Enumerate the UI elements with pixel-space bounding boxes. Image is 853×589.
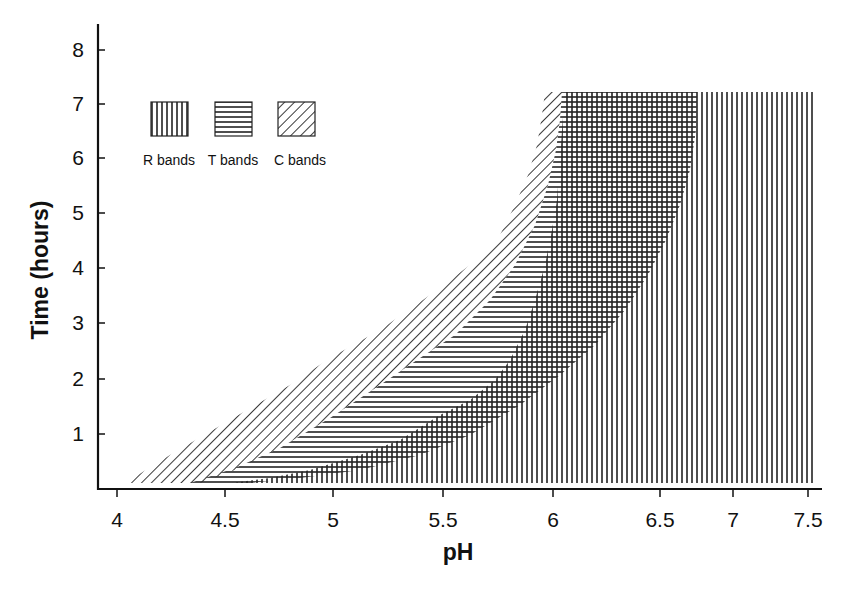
x-ticks xyxy=(117,489,808,497)
x-tick-label: 6 xyxy=(547,508,559,531)
x-tick-label: 7 xyxy=(727,508,739,531)
y-tick-label: 2 xyxy=(72,367,84,390)
y-axis-title: Time (hours) xyxy=(27,201,53,340)
horizontal-lines-swatch-icon xyxy=(215,102,252,136)
chart: 1 2 3 4 5 6 7 8 4 4.5 5 5.5 6 6.5 xyxy=(0,0,853,589)
x-tick-label: 7.5 xyxy=(793,508,822,531)
x-axis-title: pH xyxy=(443,539,474,565)
y-tick-label: 3 xyxy=(72,311,84,334)
x-tick-label: 5 xyxy=(327,508,339,531)
legend-label: R bands xyxy=(143,152,195,168)
vertical-lines-swatch-icon xyxy=(151,102,188,136)
x-tick-label: 5.5 xyxy=(428,508,457,531)
legend-item-c-bands: C bands xyxy=(274,102,326,168)
y-tick-label: 1 xyxy=(72,422,84,445)
y-tick-labels: 1 2 3 4 5 6 7 8 xyxy=(72,38,84,445)
legend-item-r-bands: R bands xyxy=(143,102,195,168)
x-tick-labels: 4 4.5 5 5.5 6 6.5 7 7.5 xyxy=(111,508,822,531)
y-tick-label: 5 xyxy=(72,201,84,224)
y-tick-label: 6 xyxy=(72,146,84,169)
y-tick-label: 7 xyxy=(72,92,84,115)
legend-label: T bands xyxy=(208,152,258,168)
legend-item-t-bands: T bands xyxy=(208,102,258,168)
diagonal-lines-swatch-icon xyxy=(278,102,315,136)
y-tick-label: 8 xyxy=(72,38,84,61)
plot-area xyxy=(125,92,813,483)
x-tick-label: 4 xyxy=(111,508,123,531)
legend: R bands T bands C bands xyxy=(143,102,326,168)
x-tick-label: 6.5 xyxy=(645,508,674,531)
legend-label: C bands xyxy=(274,152,326,168)
x-tick-label: 4.5 xyxy=(210,508,239,531)
y-tick-label: 4 xyxy=(72,256,84,279)
